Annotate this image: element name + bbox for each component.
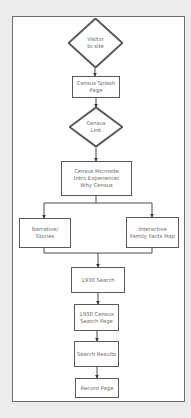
node-census-microsite: Census Microsite Intro Experience/ Why C… — [61, 161, 132, 196]
node-visitor-to-site: Visitor to site — [68, 18, 123, 68]
node-record-page: Record Page — [75, 378, 119, 398]
node-label: Census Microsite Intro Experience/ Why C… — [74, 168, 119, 189]
node-label: Interactive Family Facts Map — [130, 226, 175, 240]
node-label: Narrative/ Stories — [32, 226, 58, 240]
node-census-link: Census Link — [69, 107, 123, 147]
connector-microsite-to-family_map — [96, 203, 152, 217]
connector-narrative-to-search_1930 — [44, 248, 98, 267]
node-label: Census Link — [86, 120, 105, 134]
node-label: Search Results — [77, 351, 116, 358]
node-search-results: Search Results — [74, 341, 119, 367]
node-label: Record Page — [81, 385, 114, 392]
node-label: 1930 Census Search Page — [79, 311, 113, 325]
connector-microsite-to-narrative — [44, 196, 96, 218]
node-label: Census Splash Page — [77, 80, 115, 94]
node-label: Visitor to site — [87, 36, 104, 50]
node-interactive-family-facts-map: Interactive Family Facts Map — [126, 217, 179, 248]
node-label: 1930 Search — [81, 277, 114, 284]
node-1930-search: 1930 Search — [71, 267, 125, 293]
node-narrative-stories: Narrative/ Stories — [19, 218, 71, 248]
diagram-canvas: Visitor to site Census Splash Page Censu… — [0, 0, 191, 418]
node-1930-census-search-page: 1930 Census Search Page — [74, 304, 119, 331]
connector-family_map-to-search_1930 — [98, 248, 152, 253]
node-census-splash-page: Census Splash Page — [72, 76, 120, 98]
